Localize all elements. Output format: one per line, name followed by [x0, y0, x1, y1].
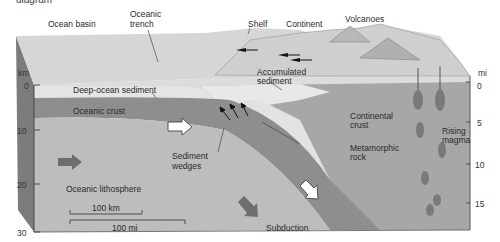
- label-oceanic-trench-2: trench: [130, 20, 154, 29]
- left-axis-tick-30: 30: [17, 228, 26, 238]
- left-axis-tick-20: 20: [17, 180, 26, 190]
- label-continent: Continent: [286, 20, 322, 29]
- label-metamorphic-rock-2: rock: [350, 153, 366, 162]
- scale-bar-mi-label: 100 mi: [112, 224, 138, 233]
- right-axis-tick-10: 10: [475, 160, 484, 170]
- right-axis-tick-0: 0: [477, 81, 482, 91]
- label-oceanic-crust: Oceanic crust: [73, 107, 125, 116]
- right-axis-unit: mi: [478, 68, 487, 78]
- label-sediment-wedges-2: wedges: [172, 162, 201, 171]
- label-oceanic-trench-1: Oceanic: [130, 10, 161, 19]
- label-oceanic-lithosphere: Oceanic lithosphere: [66, 185, 141, 194]
- label-deep-ocean-sediment: Deep-ocean sediment: [73, 86, 156, 95]
- label-sediment-wedges-1: Sediment: [172, 152, 208, 161]
- right-axis-tick-5: 5: [477, 118, 482, 128]
- label-shelf: Shelf: [248, 20, 267, 29]
- label-subduction: Subduction: [266, 224, 309, 233]
- label-accumulated-sediment-2: sediment: [257, 77, 292, 86]
- label-volcanoes: Volcanoes: [345, 15, 384, 24]
- label-continental-crust-2: crust: [350, 121, 368, 130]
- subduction-block-diagram: [0, 0, 500, 242]
- left-axis-tick-0: 0: [24, 81, 29, 91]
- label-ocean-basin: Ocean basin: [48, 20, 96, 29]
- left-axis-unit: km: [18, 68, 29, 78]
- label-rising-magma-2: magma: [442, 136, 470, 145]
- right-axis-tick-15: 15: [475, 199, 484, 209]
- scale-bar-km-label: 100 km: [92, 204, 120, 213]
- left-axis-tick-10: 10: [17, 126, 26, 136]
